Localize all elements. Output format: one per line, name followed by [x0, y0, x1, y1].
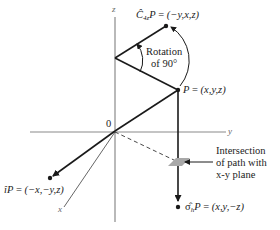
p-lhs: P	[183, 84, 189, 95]
rotation-annotation: Rotation of 90°	[146, 46, 182, 70]
y-axis-label: y	[228, 127, 232, 136]
point-c4p	[164, 24, 168, 28]
symmetry-diagram: z y x 0 Ĉ4zP = (−y,x,z) Rotation of 90° …	[0, 0, 280, 230]
c4-label: Ĉ4zP = (−y,x,z)	[136, 10, 199, 22]
origin-to-p-line	[115, 90, 178, 131]
inversion-path	[53, 131, 115, 176]
c4-operator: Ĉ	[136, 9, 143, 20]
p-label: P = (x,y,z)	[183, 85, 226, 96]
diagram-canvas	[0, 0, 280, 230]
c4-lhs: P	[149, 9, 155, 20]
p-rhs: (x,y,z)	[201, 84, 226, 95]
c4-rhs: (−y,x,z)	[167, 9, 199, 20]
x-axis-label: x	[58, 205, 62, 214]
projection-dashed-line	[115, 132, 176, 161]
z-axis-label: z	[112, 5, 116, 14]
rotation-angle-arc	[137, 44, 143, 72]
point-p	[176, 88, 180, 92]
reflection-lhs: P	[194, 201, 200, 212]
reflection-label: σ̂hP = (x,y,−z)	[185, 202, 244, 214]
origin-label: 0	[106, 119, 111, 130]
inversion-lhs: P	[7, 184, 13, 195]
point-ip	[48, 176, 52, 180]
reflection-rhs: (x,y,−z)	[212, 201, 244, 212]
inversion-rhs: (−x,−y,z)	[25, 184, 64, 195]
point-sigmap	[176, 205, 180, 209]
intersection-annotation: Intersection of path with x-y plane	[216, 145, 267, 181]
inversion-label: îP = (−x,−y,z)	[4, 185, 64, 196]
x-axis	[64, 132, 115, 207]
